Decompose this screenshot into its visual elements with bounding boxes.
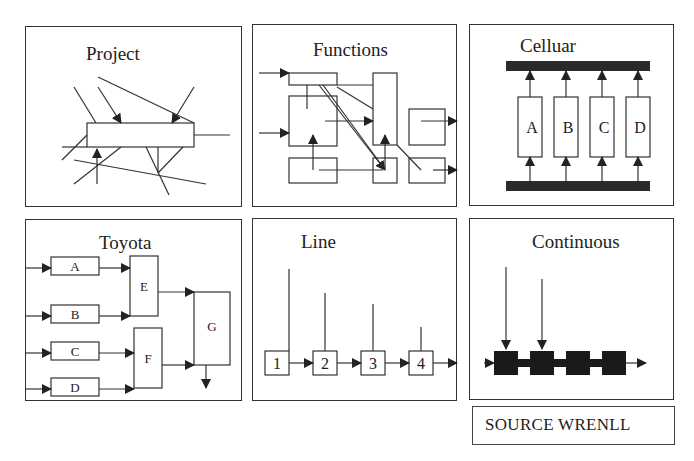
station-label-c: C xyxy=(71,344,80,359)
station-label-b: B xyxy=(71,307,80,322)
continuous-diagram xyxy=(470,219,675,401)
panel-project: Project xyxy=(25,26,242,207)
station-label-3: 3 xyxy=(369,355,377,372)
panel-functions: Functions xyxy=(252,24,457,207)
station-label-2: 2 xyxy=(321,355,329,372)
panel-line: Line 1 2 3 4 xyxy=(252,218,457,401)
project-diagram xyxy=(26,27,243,208)
station-label-4: 4 xyxy=(417,355,425,372)
station-label-e: E xyxy=(140,279,148,294)
station-label-a: A xyxy=(70,259,80,274)
panel-toyota: Toyota xyxy=(25,219,242,401)
cell-label-a: A xyxy=(526,119,538,136)
functions-diagram xyxy=(253,25,458,208)
panel-continuous: Continuous xyxy=(469,218,674,400)
line-diagram: 1 2 3 4 xyxy=(253,219,458,402)
celluar-diagram: A B C D xyxy=(470,25,675,207)
cell-label-d: D xyxy=(634,119,646,136)
toyota-diagram: A B C D E F G xyxy=(26,220,243,402)
cell-label-c: C xyxy=(599,119,610,136)
station-label-g: G xyxy=(207,319,216,334)
station-label-d: D xyxy=(70,380,79,395)
station-label-f: F xyxy=(144,351,151,366)
source-label: SOURCE WRENLL xyxy=(472,406,675,445)
station-label-1: 1 xyxy=(273,355,281,372)
cell-label-b: B xyxy=(563,119,574,136)
panel-celluar: Celluar A B C D xyxy=(469,24,674,206)
